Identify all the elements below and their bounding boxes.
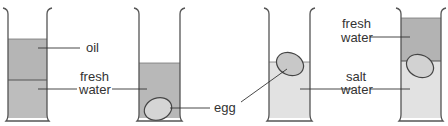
label-fresh-water-2-line1: fresh — [342, 16, 371, 31]
label-oil: oil — [86, 40, 99, 55]
oil-layer — [8, 39, 47, 80]
label-fresh-water-2-line2: water — [340, 30, 373, 45]
beaker-1 — [3, 8, 52, 121]
label-egg: egg — [214, 100, 236, 115]
beaker-4 — [396, 8, 446, 121]
fresh-water-layer — [8, 80, 47, 118]
label-fresh-water-1-line2: water — [78, 82, 111, 97]
beaker-3 — [264, 8, 315, 121]
beaker-2 — [134, 8, 185, 124]
label-salt-water-line2: water — [340, 82, 373, 97]
egg-beaker-diagram: oil fresh water egg salt water fresh wat… — [0, 0, 448, 126]
